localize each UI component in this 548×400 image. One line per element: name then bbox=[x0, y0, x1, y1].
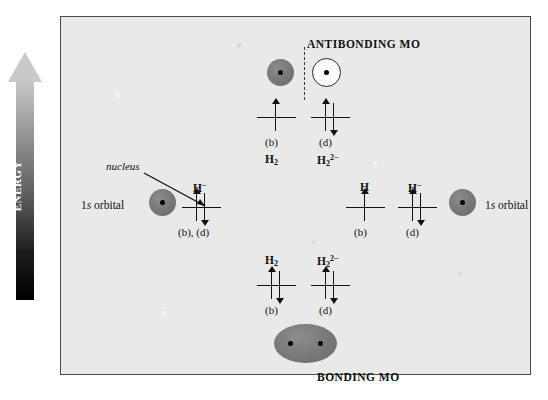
orbital-level-line bbox=[311, 117, 350, 118]
electron-arrow-up bbox=[196, 193, 197, 221]
electron-arrow-down bbox=[333, 271, 334, 299]
electron-arrow-up bbox=[325, 271, 326, 299]
electron-arrow-up bbox=[271, 271, 272, 299]
energy-axis-label: ENERGY bbox=[11, 146, 23, 226]
energy-axis-arrow: ENERGY bbox=[8, 52, 42, 300]
antibonding-case-label-h2: (b) bbox=[265, 136, 278, 148]
orbital-level-line bbox=[311, 285, 350, 286]
electron-arrow-up bbox=[412, 193, 413, 221]
electron-arrow-up bbox=[325, 103, 326, 131]
electron-arrow-down bbox=[204, 193, 205, 221]
orbital-level-line bbox=[257, 117, 296, 118]
electron-arrow-down bbox=[420, 193, 421, 221]
left-1s-orbital-shape bbox=[149, 189, 176, 216]
right-1s-orbital-label: 1s orbital bbox=[485, 199, 528, 211]
bonding-case-label-h2: (b) bbox=[265, 304, 278, 316]
right-1s-orbital-shape bbox=[449, 189, 476, 216]
electron-arrow-down bbox=[279, 271, 280, 299]
right-atomic-case-label-h: (b) bbox=[354, 226, 367, 238]
orbital-level-line bbox=[398, 207, 437, 208]
bonding-mo-orbital-shape bbox=[274, 324, 337, 363]
antibonding-species-label-h2: H2 bbox=[265, 153, 278, 167]
nucleus-dot-icon bbox=[160, 200, 165, 205]
bonding-case-label-h2-2minus: (d) bbox=[319, 304, 332, 316]
electron-arrow-up bbox=[275, 103, 276, 131]
nodal-plane-dashed-line bbox=[304, 47, 305, 100]
diagram-panel: ANTIBONDING MO BONDING MO (b) H2 (d) H2 bbox=[60, 16, 531, 375]
orbital-level-line bbox=[257, 285, 296, 286]
antibonding-species-label-h2-2minus: H22− bbox=[317, 153, 339, 168]
antibonding-mo-title: ANTIBONDING MO bbox=[307, 38, 420, 50]
nucleus-dot-icon bbox=[278, 70, 283, 75]
mo-diagram-figure: ENERGY ANTIBONDING MO BONDING MO (b) H2 bbox=[0, 0, 548, 400]
nucleus-dot-icon bbox=[288, 341, 293, 346]
nucleus-dot-icon bbox=[460, 200, 465, 205]
nucleus-dot-icon bbox=[324, 70, 329, 75]
left-atomic-case-label: (b), (d) bbox=[178, 226, 209, 238]
energy-arrow-head-icon bbox=[8, 52, 42, 82]
nucleus-dot-icon bbox=[318, 341, 323, 346]
antibonding-lobe-filled bbox=[267, 59, 294, 86]
left-1s-orbital-label: 1s orbital bbox=[81, 199, 124, 211]
right-atomic-case-label-h-minus: (d) bbox=[406, 226, 419, 238]
electron-arrow-up bbox=[364, 193, 365, 221]
orbital-level-line bbox=[182, 207, 221, 208]
bonding-mo-title: BONDING MO bbox=[317, 371, 400, 383]
antibonding-lobe-open bbox=[312, 58, 341, 87]
nucleus-callout-label: nucleus bbox=[106, 160, 140, 172]
antibonding-case-label-h2-2minus: (d) bbox=[319, 136, 332, 148]
orbital-level-line bbox=[346, 207, 385, 208]
electron-arrow-down bbox=[333, 103, 334, 131]
